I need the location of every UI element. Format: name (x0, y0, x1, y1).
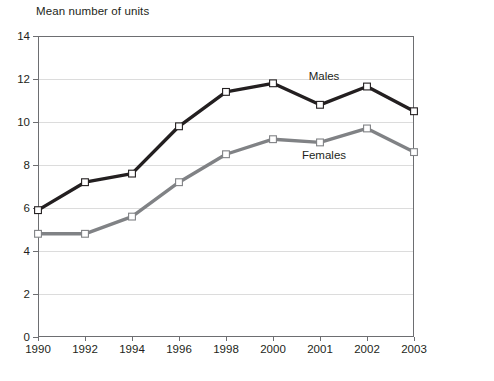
gridline (39, 251, 413, 252)
x-tick-label: 2000 (260, 343, 286, 355)
y-tick-mark (33, 165, 38, 166)
y-tick-mark (33, 122, 38, 123)
gridline (39, 294, 413, 295)
x-tick-mark (85, 337, 86, 341)
y-tick-mark (33, 294, 38, 295)
y-tick-label: 14 (0, 30, 30, 42)
chart-title: Mean number of units (36, 5, 149, 17)
plot-area (38, 36, 414, 337)
y-tick-mark (33, 36, 38, 37)
y-tick-label: 2 (0, 288, 30, 300)
gridline (39, 79, 413, 80)
gridline (39, 165, 413, 166)
y-tick-label: 6 (0, 202, 30, 214)
x-tick-mark (226, 337, 227, 341)
y-tick-label: 0 (0, 331, 30, 343)
series-label-females: Females (302, 149, 346, 161)
x-tick-label: 1994 (119, 343, 145, 355)
x-tick-mark (38, 337, 39, 341)
chart-container: Mean number of units 02468101214 1990199… (0, 0, 494, 381)
x-tick-label: 2001 (307, 343, 333, 355)
y-tick-label: 12 (0, 73, 30, 85)
x-tick-mark (132, 337, 133, 341)
y-tick-mark (33, 79, 38, 80)
y-tick-mark (33, 251, 38, 252)
y-tick-label: 8 (0, 159, 30, 171)
y-tick-mark (33, 208, 38, 209)
series-label-males: Males (309, 70, 340, 82)
x-tick-label: 1998 (213, 343, 239, 355)
x-tick-mark (273, 337, 274, 341)
x-tick-label: 2002 (354, 343, 380, 355)
x-tick-mark (414, 337, 415, 341)
x-tick-mark (367, 337, 368, 341)
gridline (39, 122, 413, 123)
y-tick-label: 4 (0, 245, 30, 257)
x-tick-label: 1990 (25, 343, 51, 355)
gridline (39, 208, 413, 209)
x-tick-label: 1992 (72, 343, 98, 355)
y-tick-label: 10 (0, 116, 30, 128)
x-tick-label: 1996 (166, 343, 192, 355)
x-tick-label: 2003 (401, 343, 427, 355)
x-tick-mark (320, 337, 321, 341)
x-tick-mark (179, 337, 180, 341)
